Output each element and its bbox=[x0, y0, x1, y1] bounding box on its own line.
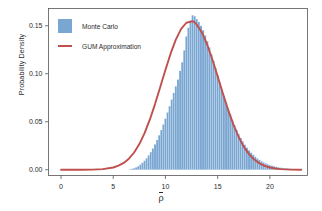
histogram-bar bbox=[219, 82, 221, 170]
histogram-bar bbox=[171, 100, 173, 170]
histogram-bar bbox=[225, 102, 227, 169]
histogram-bar bbox=[175, 86, 177, 169]
histogram-bar bbox=[139, 165, 141, 170]
histogram-bar bbox=[177, 80, 179, 170]
histogram-bar bbox=[202, 30, 204, 170]
histogram-bar bbox=[258, 160, 260, 170]
histogram-bar bbox=[156, 140, 158, 170]
histogram-bar bbox=[189, 21, 191, 170]
histogram-bar bbox=[210, 54, 212, 170]
legend-label-monte-carlo: Monte Carlo bbox=[82, 23, 118, 30]
histogram-bar bbox=[152, 148, 154, 169]
histogram-bar bbox=[204, 35, 206, 169]
histogram-bar bbox=[198, 22, 200, 170]
x-axis-label-text: ρ bbox=[158, 193, 163, 203]
histogram-bar bbox=[187, 28, 189, 170]
y-axis-label: Probability Density bbox=[17, 20, 26, 110]
histogram-bar bbox=[196, 19, 198, 170]
histogram-bar bbox=[206, 41, 208, 170]
histogram-bar bbox=[150, 152, 152, 170]
histogram-bar bbox=[160, 130, 162, 170]
histogram-bar bbox=[183, 50, 185, 169]
histogram-bar bbox=[221, 89, 223, 170]
histogram-bar bbox=[164, 119, 166, 170]
histogram-bar bbox=[215, 68, 217, 170]
x-tick-label: 0 bbox=[59, 183, 63, 190]
histogram-bar bbox=[167, 112, 169, 169]
plot-canvas: 05101520 0.000.050.100.15 Monte Carlo GU… bbox=[0, 0, 322, 211]
histogram-bar bbox=[137, 166, 139, 170]
y-tick-label: 0.05 bbox=[29, 118, 43, 125]
histogram-bar bbox=[256, 158, 258, 169]
x-tick-label: 10 bbox=[162, 183, 170, 190]
histogram-bar bbox=[144, 161, 146, 170]
histogram-bar bbox=[181, 62, 183, 169]
histogram-bar bbox=[133, 168, 135, 170]
histogram-bar bbox=[185, 36, 187, 169]
legend-label-gum: GUM Approximation bbox=[82, 43, 141, 51]
histogram-bar bbox=[194, 16, 196, 170]
histogram-bar bbox=[179, 71, 181, 170]
histogram-bar bbox=[200, 26, 202, 170]
x-tick-label: 15 bbox=[214, 183, 222, 190]
histogram-bar bbox=[146, 158, 148, 170]
histogram-bar bbox=[154, 144, 156, 169]
histogram-bar bbox=[231, 120, 233, 170]
histogram-bar bbox=[135, 167, 137, 170]
histogram-bar bbox=[233, 125, 235, 170]
histogram-bar bbox=[131, 169, 133, 170]
histogram-bar bbox=[217, 75, 219, 170]
chart-figure: Probability Density 05101520 0.000.050.1… bbox=[0, 0, 322, 211]
histogram-bar bbox=[141, 163, 143, 170]
histogram-bar bbox=[229, 114, 231, 169]
histogram-bar bbox=[173, 93, 175, 170]
histogram-bar bbox=[192, 15, 194, 170]
y-tick-label: 0.10 bbox=[29, 70, 43, 77]
histogram-bar bbox=[169, 106, 171, 170]
y-tick-label: 0.00 bbox=[29, 166, 43, 173]
legend-swatch-monte-carlo bbox=[58, 19, 72, 33]
histogram-bar bbox=[212, 61, 214, 170]
histogram-bar bbox=[227, 109, 229, 170]
histogram-bar bbox=[162, 124, 164, 169]
x-tick-label: 20 bbox=[266, 183, 274, 190]
histogram-bar bbox=[208, 47, 210, 169]
y-tick-label: 0.15 bbox=[29, 22, 43, 29]
histogram-bar bbox=[148, 155, 150, 169]
histogram-bar bbox=[223, 96, 225, 170]
x-axis-label: ρ bbox=[0, 193, 322, 203]
x-tick-label: 5 bbox=[111, 183, 115, 190]
histogram-bar bbox=[158, 135, 160, 170]
